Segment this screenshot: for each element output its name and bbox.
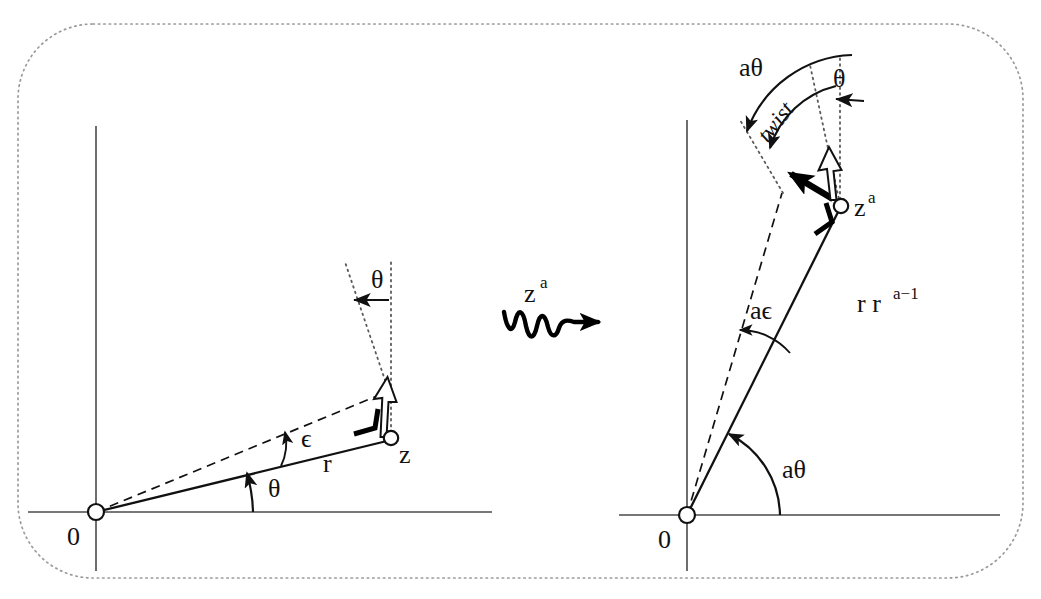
right-a-theta-arc: [729, 434, 780, 515]
right-a-theta-origin-label: aθ: [782, 455, 806, 484]
left-radius-label: r: [323, 449, 332, 478]
map-arrow-group: z a: [504, 273, 598, 337]
squiggle-arrow: [504, 312, 598, 337]
right-outer-a-theta-label: aθ: [739, 53, 763, 82]
right-a-epsilon-label: aϵ: [750, 296, 772, 325]
left-epsilon-label: ϵ: [301, 424, 312, 453]
figure-container: θ ϵ r z 0 θ z a: [0, 0, 1041, 599]
map-arrow-exponent-label: a: [540, 273, 548, 292]
right-a-epsilon-arc: [740, 330, 790, 353]
right-origin-label: 0: [658, 525, 671, 554]
left-right-angle-marker: [354, 409, 378, 434]
right-point-za-exponent: a: [868, 188, 876, 207]
map-arrow-base-label: z: [524, 279, 536, 308]
left-theta-arc: [247, 473, 253, 512]
left-origin-dot: [88, 504, 104, 520]
right-bold-vector: [791, 174, 833, 199]
right-twist-label: twist: [752, 97, 799, 147]
right-panel: aθ aϵ r r a−1 z a 0 aθ: [619, 53, 1000, 571]
right-point-za-label: z: [854, 193, 866, 222]
right-theta-inner-label: θ: [833, 64, 845, 93]
right-radius-label: r r: [857, 289, 881, 318]
left-panel: θ ϵ r z 0 θ: [28, 126, 492, 571]
complex-power-diagram: θ ϵ r z 0 θ z a: [0, 0, 1041, 599]
left-epsilon-arc: [281, 432, 286, 466]
right-point-za-dot: [834, 199, 848, 213]
left-theta-origin-label: θ: [268, 474, 280, 503]
right-origin-dot: [679, 507, 695, 523]
left-point-z-dot: [384, 431, 398, 445]
right-radius-exponent: a−1: [893, 284, 919, 303]
left-theta-top-label: θ: [371, 265, 383, 294]
left-radius-ray: [96, 440, 391, 512]
left-origin-label: 0: [67, 522, 80, 551]
left-point-z-label: z: [399, 440, 411, 469]
